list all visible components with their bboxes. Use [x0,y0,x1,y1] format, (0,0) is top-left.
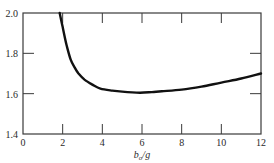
x-tick-label: 6 [140,137,145,148]
y-tick-label: 1.8 [6,48,19,59]
plot-frame [23,13,261,134]
chart-container: 0246810121.41.61.82.0 bo/g [0,0,274,163]
x-tick-label: 2 [60,137,65,148]
x-tick-label: 12 [256,137,266,148]
y-tick-label: 2.0 [6,8,19,19]
tick-labels: 0246810121.41.61.82.0 [6,8,267,148]
x-tick-label: 10 [216,137,226,148]
plot-border [23,13,261,134]
x-tick-label: 0 [21,137,26,148]
series-line [60,13,261,93]
data-series [60,13,261,93]
x-axis-label-rest: /g [141,149,150,160]
chart-svg: 0246810121.41.61.82.0 bo/g [0,0,274,163]
x-axis-label: bo/g [134,149,150,162]
x-tick-label: 8 [179,137,184,148]
x-tick-label: 4 [100,137,105,148]
y-tick-label: 1.6 [6,89,19,100]
axis-ticks [23,13,261,134]
y-tick-label: 1.4 [6,129,19,140]
